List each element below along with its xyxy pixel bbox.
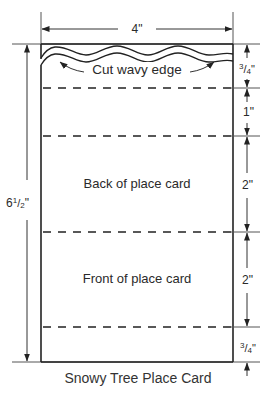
- cut-arrow-right: [190, 62, 214, 72]
- height-label: 61/2": [6, 192, 29, 215]
- section-3-dimension: 2": [242, 178, 253, 192]
- section-4-dimension: 2": [242, 273, 253, 287]
- cut-arrow-left: [60, 62, 84, 72]
- front-of-card-label: Front of place card: [83, 272, 191, 286]
- diagram-canvas: [0, 0, 276, 397]
- section-2-dimension: 1": [243, 105, 254, 119]
- back-of-card-label: Back of place card: [84, 177, 191, 191]
- section-1-dimension: 3/4": [239, 60, 255, 79]
- fold-lines: [43, 88, 233, 327]
- width-label: 4": [129, 22, 146, 36]
- diagram-title: Snowy Tree Place Card: [64, 370, 211, 386]
- section-5-dimension: 3/4": [240, 339, 256, 358]
- wavy-cut-line-upper: [41, 46, 233, 58]
- cut-wavy-edge-label: Cut wavy edge: [90, 62, 183, 77]
